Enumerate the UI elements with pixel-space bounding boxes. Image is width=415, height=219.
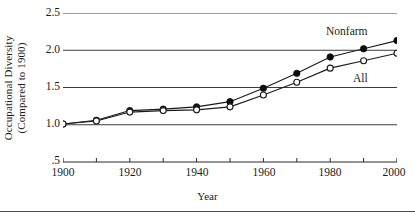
data-point-all-1960: [260, 92, 266, 98]
data-point-all-1920: [127, 109, 133, 115]
data-point-all-2000: [394, 50, 397, 56]
chart-figure: Occupational Diversity (Compared to 1900…: [0, 0, 415, 219]
y-axis-title: Occupational Diversity (Compared to 1900…: [0, 0, 30, 175]
series-label-nonfarm: Nonfarm: [326, 25, 368, 38]
y-tick-label-1-0: 1.0: [30, 118, 60, 130]
footer-rule: [0, 211, 415, 212]
x-tick-label-1980: 1980: [319, 166, 342, 179]
y-axis-tick-labels: 2.5 2.0 1.5 1.0 .5: [28, 0, 60, 219]
data-point-all-1940: [194, 107, 200, 113]
y-axis-title-text: Occupational Diversity (Compared to 1900…: [2, 35, 28, 140]
x-tick-label-1920: 1920: [119, 166, 142, 179]
data-point-all-1930: [160, 108, 166, 114]
data-point-nonfarm-1980: [327, 54, 333, 60]
data-point-nonfarm-1970: [294, 70, 300, 76]
x-axis-tick-labels: 1900 1920 1940 1960 1980 2000: [0, 166, 415, 182]
data-point-nonfarm-2000: [394, 37, 397, 43]
data-point-all-1980: [327, 65, 333, 71]
data-point-nonfarm-1990: [360, 46, 366, 52]
y-tick-label-2-5: 2.5: [30, 7, 60, 19]
data-point-all-1950: [227, 104, 233, 110]
data-point-all-1910: [93, 118, 99, 124]
data-point-all-1900: [63, 121, 66, 127]
series-lines: [63, 41, 397, 124]
y-tick-label-1-5: 1.5: [30, 81, 60, 93]
data-point-all-1970: [294, 79, 300, 85]
x-tick-label-1900: 1900: [52, 166, 75, 179]
x-tick-label-2000: 2000: [383, 166, 406, 179]
series-label-all: All: [353, 72, 368, 85]
y-axis-title-line-1: Occupational Diversity: [2, 35, 15, 140]
x-tick-label-1940: 1940: [186, 166, 209, 179]
x-axis-title: Year: [0, 190, 415, 203]
data-point-nonfarm-1960: [260, 85, 266, 91]
x-tick-label-1960: 1960: [253, 166, 276, 179]
series-line-all: [63, 53, 397, 124]
y-axis-title-line-2: (Compared to 1900): [15, 35, 28, 140]
y-tick-label-0-5: .5: [30, 155, 60, 167]
data-point-all-1990: [361, 58, 367, 64]
y-tick-label-2-0: 2.0: [30, 44, 60, 56]
series-line-nonfarm: [63, 41, 397, 124]
series-markers: [63, 37, 397, 127]
